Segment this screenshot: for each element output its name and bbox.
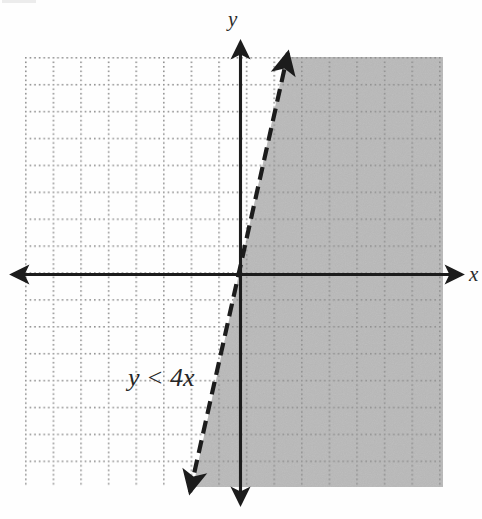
- graph-figure: y x y < 4x: [0, 0, 482, 519]
- y-axis-label: y: [226, 7, 238, 31]
- inequality-label: y < 4x: [125, 363, 195, 392]
- inequality-graph-svg: y x y < 4x: [0, 0, 482, 519]
- x-axis-label: x: [468, 262, 479, 286]
- grid-lines: [25, 57, 443, 487]
